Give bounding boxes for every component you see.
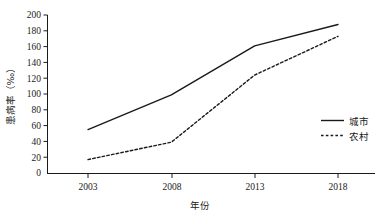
y-tick-label: 140 <box>27 58 42 68</box>
y-axis-title: 患病率（‰） <box>5 63 16 126</box>
y-tick-label: 60 <box>32 121 42 131</box>
y-tick-label: 120 <box>27 74 42 84</box>
legend-label-urban: 城市 <box>349 116 369 127</box>
chart-canvas: 200 180 160 140 120 100 80 60 40 20 0 患病… <box>0 0 387 220</box>
y-tick-label: 20 <box>32 153 42 163</box>
x-tick-label: 2013 <box>246 182 265 192</box>
x-tick-label: 2018 <box>329 182 348 192</box>
x-axis-title: 年份 <box>190 200 210 211</box>
y-tick-label: 180 <box>27 26 42 36</box>
legend-label-rural: 农村 <box>349 131 369 142</box>
x-tick-label: 2003 <box>79 182 98 192</box>
y-tick-label: 200 <box>27 10 42 20</box>
y-tick-label: 40 <box>32 137 42 147</box>
line-chart: 200 180 160 140 120 100 80 60 40 20 0 患病… <box>0 0 387 220</box>
y-tick-label: 100 <box>27 89 42 99</box>
x-tick-label: 2008 <box>163 182 182 192</box>
y-tick-label: 160 <box>27 42 42 52</box>
y-tick-label: 0 <box>36 168 41 178</box>
y-tick-label: 80 <box>32 105 42 115</box>
